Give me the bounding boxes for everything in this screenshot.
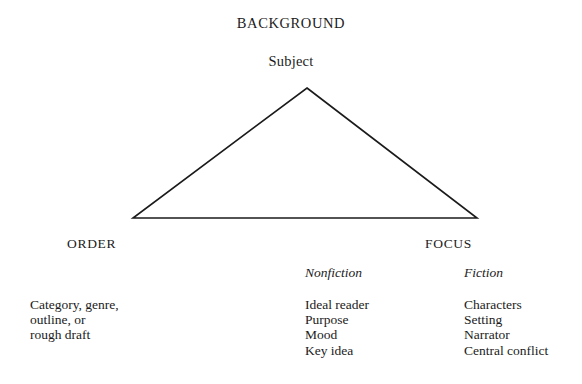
- order-column-items: Category, genre, outline, or rough draft: [30, 297, 119, 343]
- subject-label: Subject: [0, 53, 582, 70]
- fiction-column-items: Characters Setting Narrator Central conf…: [464, 297, 548, 358]
- focus-vertex-label: FOCUS: [425, 236, 472, 252]
- nonfiction-column-items: Ideal reader Purpose Mood Key idea: [305, 297, 369, 358]
- fiction-column-header: Fiction: [464, 265, 503, 281]
- triangle-outline: [133, 88, 477, 218]
- diagram-canvas: BACKGROUND Subject ORDER FOCUS Nonfictio…: [0, 0, 582, 384]
- nonfiction-column-header: Nonfiction: [305, 265, 362, 281]
- order-vertex-label: ORDER: [67, 236, 116, 252]
- background-label: BACKGROUND: [0, 15, 582, 32]
